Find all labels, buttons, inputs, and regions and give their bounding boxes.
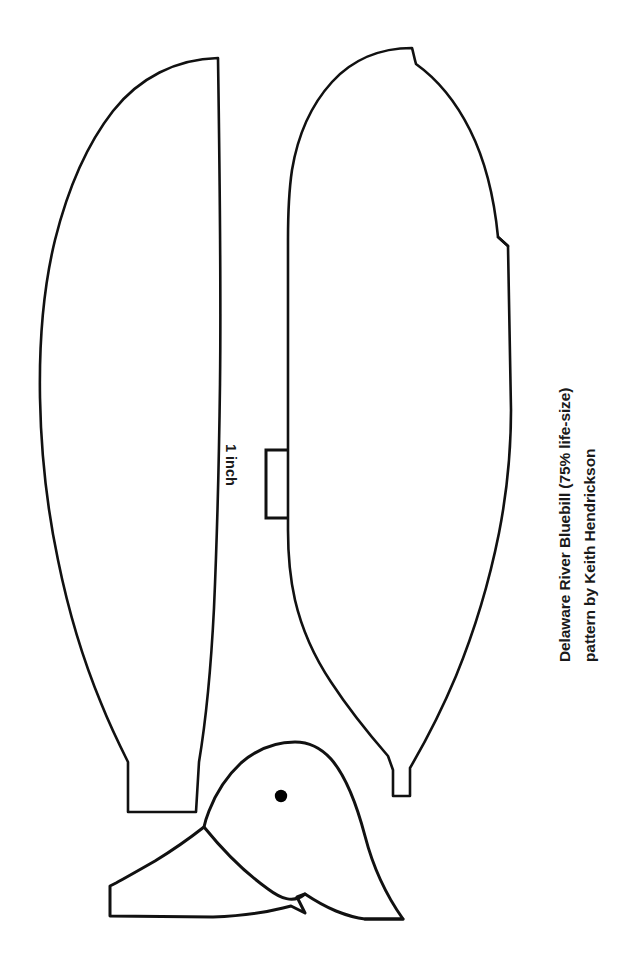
scale-bracket: [266, 450, 287, 518]
notch-right-blank: [498, 237, 508, 246]
pattern-sheet: Delaware River Bluebill (75% life-size) …: [0, 0, 636, 965]
eye-marker: [275, 790, 287, 802]
piece-body-profile-left: [40, 58, 221, 812]
bill-separation-line: [204, 827, 305, 899]
pattern-drawing: [0, 0, 636, 965]
piece-body-profile-right: [288, 48, 511, 796]
piece-head-and-bill: [110, 742, 403, 919]
